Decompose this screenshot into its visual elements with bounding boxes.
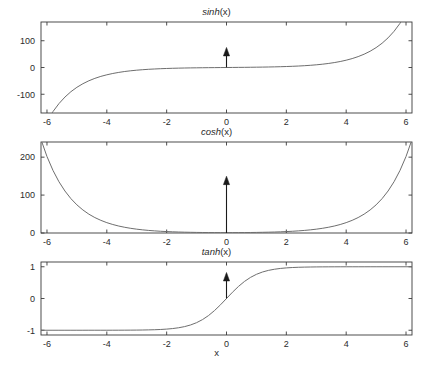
subplot-tanh: tanh(x) -6-4-20246-101 x	[0, 246, 433, 377]
subplot-tanh-title: tanh(x)	[0, 246, 433, 257]
subplot-tanh-title-arg: (x)	[220, 246, 231, 257]
y-tick-label: 1	[30, 262, 35, 272]
hyperbolic-functions-figure: sinh(x) -6-4-20246-1000100 cosh(x) -6-4-…	[0, 0, 433, 377]
arrow-head	[223, 47, 229, 56]
subplot-tanh-title-fn: tanh	[202, 246, 221, 257]
subplot-sinh-canvas: -6-4-20246-1000100	[0, 6, 433, 118]
y-tick-label: -1	[27, 326, 35, 336]
subplot-sinh-title-arg: (x)	[220, 6, 231, 17]
subplot-cosh-title-fn: cosh	[201, 126, 221, 137]
subplot-sinh-title: sinh(x)	[0, 6, 433, 17]
y-tick-label: 0	[30, 228, 35, 238]
y-tick-label: -100	[17, 90, 35, 100]
arrow-head	[223, 272, 229, 281]
y-tick-label: 200	[20, 152, 35, 162]
arrow-annotation	[223, 272, 229, 298]
y-tick-label: 100	[20, 190, 35, 200]
arrow-annotation	[223, 176, 229, 233]
y-tick-label: 0	[30, 63, 35, 73]
subplot-cosh-canvas: -6-4-202460100200	[0, 126, 433, 238]
subplot-tanh-canvas: -6-4-20246-101	[0, 246, 433, 358]
subplot-sinh: sinh(x) -6-4-20246-1000100	[0, 6, 433, 118]
y-tick-label: 0	[30, 294, 35, 304]
arrow-annotation	[223, 47, 229, 67]
subplot-cosh-title-arg: (x)	[221, 126, 232, 137]
arrow-head	[223, 176, 229, 185]
subplot-cosh-title: cosh(x)	[0, 126, 433, 137]
y-tick-label: 100	[20, 36, 35, 46]
subplot-sinh-title-fn: sinh	[202, 6, 219, 17]
x-axis-label: x	[0, 347, 433, 358]
subplot-cosh: cosh(x) -6-4-202460100200	[0, 126, 433, 238]
